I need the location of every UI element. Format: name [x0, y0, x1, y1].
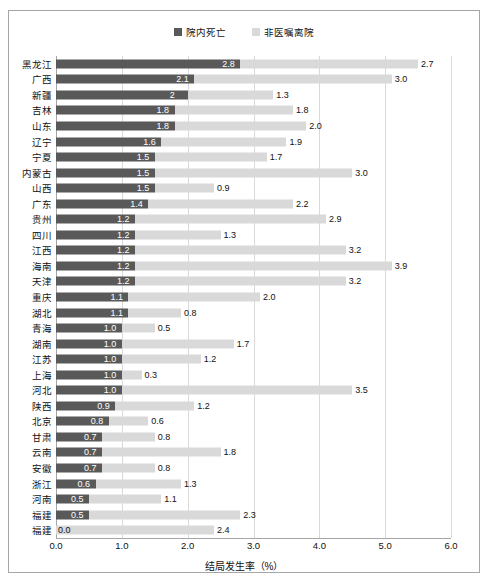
- value-label-inner-death: 1.5: [137, 168, 150, 178]
- value-label-non-advised-discharge: 3.0: [355, 168, 368, 178]
- value-label-non-advised-discharge: 2.7: [421, 59, 434, 69]
- category-label: 贵州: [32, 212, 52, 226]
- bar-segment-non-advised-discharge: [89, 495, 161, 504]
- legend-swatch-non-advised-discharge: [252, 28, 260, 36]
- value-label-inner-death: 0.5: [71, 494, 84, 504]
- value-label-inner-death: 0.8: [91, 416, 104, 426]
- bar-segment-non-advised-discharge: [135, 215, 326, 224]
- value-label-non-advised-discharge: 1.2: [197, 401, 210, 411]
- value-label-non-advised-discharge: 0.8: [184, 308, 197, 318]
- value-label-inner-death: 0.0: [58, 525, 71, 535]
- value-label-inner-death: 1.1: [110, 292, 123, 302]
- bar-row: 吉林1.81.8: [56, 103, 451, 119]
- category-label: 河南: [32, 492, 52, 506]
- value-label-inner-death: 0.7: [84, 447, 97, 457]
- bar-segment-non-advised-discharge: [122, 370, 142, 379]
- value-label-inner-death: 1.0: [104, 370, 117, 380]
- value-label-inner-death: 2: [170, 90, 175, 100]
- value-label-non-advised-discharge: 0.8: [158, 432, 171, 442]
- category-label: 湖北: [32, 306, 52, 320]
- bar-segment-non-advised-discharge: [135, 277, 346, 286]
- value-label-inner-death: 1.8: [157, 105, 170, 115]
- value-label-non-advised-discharge: 1.1: [164, 494, 177, 504]
- x-tick-label: 4.0: [313, 540, 326, 551]
- category-label: 江苏: [32, 352, 52, 366]
- bar-row: 海南1.23.9: [56, 258, 451, 274]
- category-label: 广东: [32, 197, 52, 211]
- category-label: 海南: [32, 259, 52, 273]
- category-label: 北京: [32, 414, 52, 428]
- bar-segment-non-advised-discharge: [128, 308, 181, 317]
- value-label-non-advised-discharge: 2.2: [296, 199, 309, 209]
- bar-segment-non-advised-discharge: [122, 355, 201, 364]
- bar-segment-non-advised-discharge: [194, 75, 392, 84]
- value-label-inner-death: 2.1: [176, 74, 189, 84]
- value-label-non-advised-discharge: 3.2: [349, 276, 362, 286]
- value-label-inner-death: 0.9: [97, 401, 110, 411]
- chart-screenshot: 院内死亡 非医嘱离院 黑龙江2.82.7广西2.13.0新疆21.3吉林1.81…: [0, 0, 488, 583]
- legend-swatch-inner-death: [174, 28, 182, 36]
- value-label-non-advised-discharge: 3.5: [355, 385, 368, 395]
- gridline-6.0: [451, 56, 452, 538]
- legend-item-inner-death: 院内死亡: [174, 25, 226, 39]
- bar-segment-non-advised-discharge: [96, 479, 182, 488]
- bar-row: 山西1.50.9: [56, 180, 451, 196]
- value-label-non-advised-discharge: 0.3: [145, 370, 158, 380]
- value-label-inner-death: 1.5: [137, 183, 150, 193]
- bar-row: 内蒙古1.53.0: [56, 165, 451, 181]
- value-label-inner-death: 1.2: [117, 214, 130, 224]
- value-label-non-advised-discharge: 0.9: [217, 183, 230, 193]
- bar-segment-inner-death: [56, 59, 240, 68]
- bar-row: 河北1.03.5: [56, 383, 451, 399]
- bar-row: 湖北1.10.8: [56, 305, 451, 321]
- value-label-inner-death: 1.0: [104, 339, 117, 349]
- value-label-non-advised-discharge: 2.0: [309, 121, 322, 131]
- value-label-non-advised-discharge: 2.9: [329, 214, 342, 224]
- legend-label-non-advised-discharge: 非医嘱离院: [264, 25, 314, 39]
- x-tick-label: 0.0: [49, 540, 62, 551]
- bar-segment-non-advised-discharge: [102, 432, 155, 441]
- value-label-non-advised-discharge: 1.7: [270, 152, 283, 162]
- bar-rows: 黑龙江2.82.7广西2.13.0新疆21.3吉林1.81.8山东1.82.0辽…: [56, 56, 451, 538]
- value-label-non-advised-discharge: 0.8: [158, 463, 171, 473]
- bar-row: 北京0.80.6: [56, 414, 451, 430]
- bar-segment-non-advised-discharge: [148, 199, 293, 208]
- value-label-non-advised-discharge: 3.2: [349, 245, 362, 255]
- category-label: 山东: [32, 119, 52, 133]
- bar-segment-non-advised-discharge: [122, 386, 352, 395]
- bar-segment-non-advised-discharge: [122, 339, 234, 348]
- value-label-inner-death: 1.0: [104, 323, 117, 333]
- bar-row: 云南0.71.8: [56, 445, 451, 461]
- category-label: 四川: [32, 228, 52, 242]
- value-label-non-advised-discharge: 1.3: [276, 90, 289, 100]
- category-label: 湖南: [32, 337, 52, 351]
- bar-row: 上海1.00.3: [56, 367, 451, 383]
- bar-row: 宁夏1.51.7: [56, 149, 451, 165]
- bar-segment-non-advised-discharge: [102, 464, 155, 473]
- bar-row: 辽宁1.61.9: [56, 134, 451, 150]
- bar-segment-inner-death: [56, 90, 188, 99]
- value-label-inner-death: 1.2: [117, 276, 130, 286]
- bar-row: 湖南1.01.7: [56, 336, 451, 352]
- value-label-non-advised-discharge: 0.6: [151, 416, 164, 426]
- bar-row: 重庆1.12.0: [56, 289, 451, 305]
- value-label-non-advised-discharge: 2.3: [243, 510, 256, 520]
- bar-segment-non-advised-discharge: [240, 59, 418, 68]
- x-tick-label: 2.0: [181, 540, 194, 551]
- value-label-inner-death: 1.0: [104, 354, 117, 364]
- bar-row: 新疆21.3: [56, 87, 451, 103]
- bar-segment-non-advised-discharge: [128, 292, 260, 301]
- value-label-non-advised-discharge: 3.9: [395, 261, 408, 271]
- value-label-inner-death: 0.6: [78, 479, 91, 489]
- category-label: 上海: [32, 368, 52, 382]
- bar-segment-non-advised-discharge: [122, 324, 155, 333]
- category-label: 重庆: [32, 290, 52, 304]
- value-label-non-advised-discharge: 3.0: [395, 74, 408, 84]
- value-label-inner-death: 1.2: [117, 261, 130, 271]
- bar-row: 甘肃0.70.8: [56, 429, 451, 445]
- plot-area: 黑龙江2.82.7广西2.13.0新疆21.3吉林1.81.8山东1.82.0辽…: [56, 56, 451, 538]
- bar-segment-non-advised-discharge: [188, 90, 274, 99]
- category-label: 天津: [32, 274, 52, 288]
- bar-row: 陕西0.91.2: [56, 398, 451, 414]
- category-label: 福建: [32, 523, 52, 537]
